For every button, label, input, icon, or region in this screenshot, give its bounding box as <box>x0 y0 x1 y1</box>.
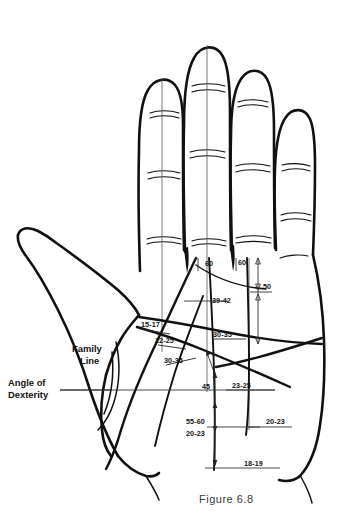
label-angle-dexterity-1: Angle of <box>8 377 46 388</box>
label-family-line-1: Family <box>72 343 102 354</box>
label-15-17: 15-17 <box>141 320 160 329</box>
label-18-19: 18-19 <box>244 459 263 468</box>
hand-measurement-diagram: 60 60 50 39-42 15-17 22-25 30-35 30-35 4… <box>0 0 344 529</box>
label-45: 45 <box>202 382 210 391</box>
label-30-35-low: 30-35 <box>164 356 183 365</box>
label-23-25: 23-25 <box>232 381 251 390</box>
label-20-23-left: 20-23 <box>186 429 205 438</box>
figure-canvas: 60 60 50 39-42 15-17 22-25 30-35 30-35 4… <box>0 0 344 529</box>
label-50: 50 <box>263 282 271 291</box>
label-20-23-right: 20-23 <box>266 417 285 426</box>
label-60-ring: 60 <box>238 258 246 267</box>
label-55-60: 55-60 <box>186 417 205 426</box>
label-60-middle: 60 <box>205 259 213 268</box>
label-family-line-2: Line <box>80 355 99 366</box>
label-22-25: 22-25 <box>155 336 174 345</box>
label-30-35-palm: 30-35 <box>213 330 232 339</box>
label-39-42: 39-42 <box>212 296 231 305</box>
figure-caption: Figure 6.8 <box>199 493 254 505</box>
paper-background <box>0 0 344 529</box>
label-angle-dexterity-2: Dexterity <box>8 389 49 400</box>
